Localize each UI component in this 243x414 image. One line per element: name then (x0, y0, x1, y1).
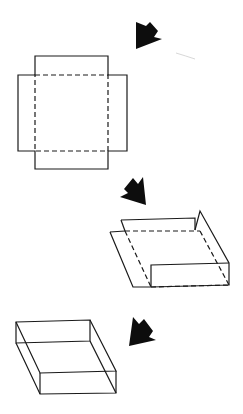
arrow-3-icon (129, 317, 156, 346)
smudge-mark (176, 53, 195, 59)
step-2-partially-folded (110, 211, 229, 287)
arrow-1-icon (136, 22, 162, 49)
step-3-finished-tray (16, 320, 116, 394)
arrow-2-icon (120, 177, 146, 205)
step-1-flat-net (18, 56, 127, 169)
box-folding-diagram (0, 0, 243, 414)
